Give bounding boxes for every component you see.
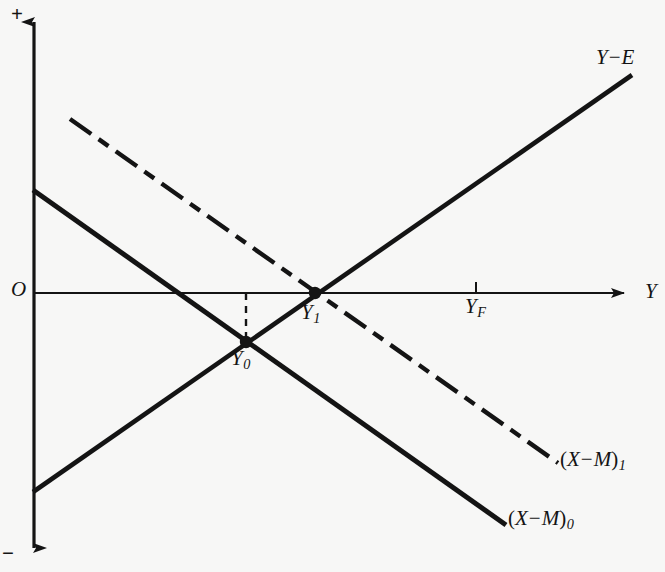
curve-label-ye: Y−E: [596, 47, 634, 68]
point-y1: [309, 287, 321, 299]
curve-label-ye-operator: −: [608, 45, 622, 69]
tick-label-yf-subscript: F: [477, 304, 486, 320]
curve-label-xm1: (X−M)1: [560, 449, 626, 472]
axis-negative-sign: −: [2, 543, 14, 564]
curve-label-xm0-paren-open: (: [508, 506, 515, 530]
point-label-y1: Y1: [301, 302, 320, 325]
curve-ye: [33, 75, 632, 492]
curve-label-ye-main: Y: [596, 45, 608, 69]
point-label-y0: Y0: [231, 348, 250, 371]
origin-label: O: [11, 279, 26, 300]
point-label-y1-main: Y: [301, 300, 313, 324]
curve-label-xm1-subscript: 1: [618, 457, 626, 473]
curve-label-xm0-tail: M: [542, 506, 560, 530]
curve-label-xm0-operator: −: [528, 506, 542, 530]
point-label-y0-main: Y: [231, 346, 243, 370]
curve-label-xm0-main: X: [515, 506, 528, 530]
point-label-y1-subscript: 1: [313, 310, 321, 326]
curve-label-xm0-subscript: 0: [566, 516, 574, 532]
axis-positive-sign: +: [11, 4, 23, 25]
curve-label-xm1-tail: M: [594, 447, 612, 471]
point-label-y0-subscript: 0: [243, 356, 251, 372]
tick-label-yf: YF: [465, 296, 486, 319]
curve-label-ye-tail: E: [622, 45, 635, 69]
curve-label-xm0: (X−M)0: [508, 508, 574, 531]
curve-label-xm1-paren-open: (: [560, 447, 567, 471]
diagram-svg: [0, 0, 665, 572]
tick-label-yf-main: Y: [465, 294, 477, 318]
curve-label-xm1-operator: −: [580, 447, 594, 471]
curve-label-xm1-main: X: [567, 447, 580, 471]
economics-diagram-canvas: + − O Y Y−E (X−M)1 (X−M)0 Y0 Y1 YF: [0, 0, 665, 572]
curve-xm0: [33, 190, 506, 525]
horizontal-axis-label: Y: [645, 281, 657, 302]
